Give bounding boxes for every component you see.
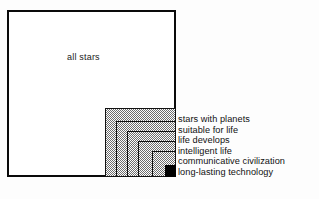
- long-lasting-technology-box: [165, 165, 176, 177]
- drake-nested-squares-figure: all stars stars with planets suitable fo…: [0, 0, 319, 199]
- all-stars-label: all stars: [67, 52, 100, 62]
- label-stars-with-planets: stars with planets: [178, 114, 285, 125]
- label-suitable-for-life: suitable for life: [178, 125, 285, 136]
- nested-label-list: stars with planets suitable for life lif…: [178, 114, 285, 177]
- label-intelligent-life: intelligent life: [178, 146, 285, 157]
- label-long-lasting-technology: long-lasting technology: [178, 167, 285, 178]
- label-life-develops: life develops: [178, 135, 285, 146]
- label-communicative-civilization: communicative civilization: [178, 156, 285, 167]
